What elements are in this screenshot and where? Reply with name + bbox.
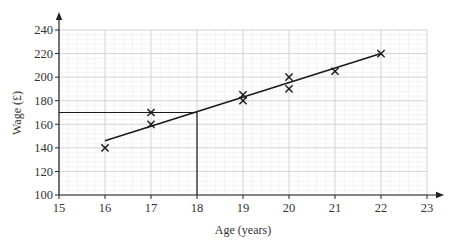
x-tick-label: 19 <box>237 201 250 215</box>
x-tick-label: 21 <box>329 201 342 215</box>
x-tick-label: 17 <box>145 201 158 215</box>
y-tick-label: 240 <box>34 23 53 37</box>
y-tick-label: 140 <box>34 141 53 155</box>
x-axis-arrow-icon <box>436 192 444 198</box>
reading-lines <box>59 113 197 196</box>
y-axis-arrow-icon <box>56 12 62 20</box>
x-tick-label: 16 <box>99 201 112 215</box>
scatter-chart: 151617181920212223 100120140160180200220… <box>0 0 453 245</box>
x-tick-label: 22 <box>375 201 388 215</box>
y-axis-title: Wage (£) <box>10 91 24 135</box>
x-tick-label: 23 <box>421 201 434 215</box>
x-axis-title: Age (years) <box>215 223 271 237</box>
x-axis-ticks: 151617181920212223 <box>53 195 434 215</box>
y-tick-label: 200 <box>34 70 53 84</box>
y-tick-label: 100 <box>34 188 53 202</box>
y-axis-ticks: 100120140160180200220240 <box>34 23 59 202</box>
x-tick-label: 15 <box>53 201 66 215</box>
x-tick-label: 20 <box>283 201 296 215</box>
y-tick-label: 180 <box>34 94 53 108</box>
x-tick-label: 18 <box>191 201 204 215</box>
y-tick-label: 220 <box>34 47 53 61</box>
y-tick-label: 160 <box>34 118 53 132</box>
y-tick-label: 120 <box>34 165 53 179</box>
